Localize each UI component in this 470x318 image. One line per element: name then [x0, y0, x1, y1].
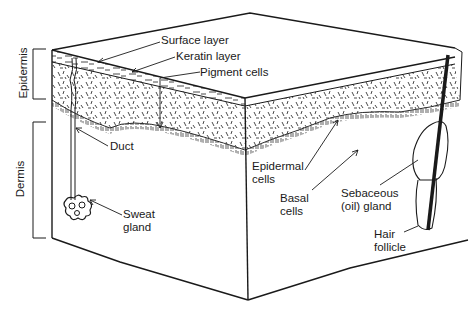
hair-follicle-label: Hair follicle	[374, 228, 406, 254]
pigment-cells-label: Pigment cells	[200, 66, 268, 79]
block-top-surface	[52, 13, 455, 50]
keratin-layer-label: Keratin layer	[176, 50, 241, 63]
epidermis-right-face	[245, 48, 462, 156]
sweat-gland	[64, 195, 92, 219]
dermis-label: Dermis	[14, 154, 26, 204]
duct-label: Duct	[110, 140, 134, 153]
skin-block-drawing	[0, 0, 470, 318]
dermis-bracket	[33, 122, 46, 238]
surface-layer-label: Surface layer	[161, 34, 229, 47]
sebaceous-gland-label: Sebaceous (oil) gland	[341, 187, 399, 213]
sweat-gland-label: Sweat gland	[123, 208, 155, 234]
basal-cells-label: Basal cells	[280, 192, 309, 218]
epidermis-label: Epidermis	[17, 43, 29, 103]
epidermis-bracket	[33, 49, 46, 99]
sebaceous-gland	[413, 121, 448, 180]
epidermal-cells-label: Epidermal cells	[252, 160, 304, 186]
skin-diagram: Epidermis Dermis Surface layer Keratin l…	[0, 0, 470, 318]
